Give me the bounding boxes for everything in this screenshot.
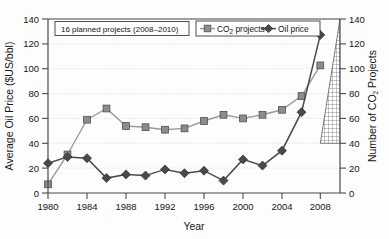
chart-legend[interactable]: CO2 projects Oil price (196, 21, 320, 36)
y-right-tick-label: 140 (349, 14, 365, 25)
chart-figure: 140 120 100 80 60 40 20 0 140 120 100 80… (0, 0, 389, 239)
chart-svg: 140 120 100 80 60 40 20 0 140 120 100 80… (0, 0, 389, 239)
y-left-tick-label: 60 (28, 113, 39, 124)
legend-square-marker-icon (204, 25, 211, 32)
y-left-tick-label: 140 (23, 14, 39, 25)
x-tick-label: 2000 (232, 201, 253, 212)
x-tick-label: 1996 (193, 201, 214, 212)
y-right-axis-title-post: Projects (366, 50, 378, 91)
y-right-tick-label: 60 (349, 113, 360, 124)
x-tick-label: 2008 (310, 201, 331, 212)
y-left-tick-label: 80 (28, 88, 39, 99)
y-left-tick-label: 40 (28, 138, 39, 149)
y-left-tick-label: 120 (23, 38, 39, 49)
y-right-tick-label: 20 (349, 163, 360, 174)
y-right-tick-label: 100 (349, 63, 365, 74)
y-right-tick-label: 80 (349, 88, 360, 99)
x-tick-label: 2004 (271, 201, 292, 212)
planned-projects-annotation: 16 planned projects (2008–2010) (55, 22, 189, 36)
y-right-axis-title-pre: Number of CO (366, 94, 378, 162)
y-right-tick-label: 0 (349, 188, 354, 199)
x-axis-title: Year (183, 220, 205, 232)
y-right-tick-label: 120 (349, 38, 365, 49)
y-left-tick-label: 20 (28, 163, 39, 174)
legend-item-oil-price[interactable]: Oil price (261, 24, 309, 34)
legend-label-oil-price: Oil price (278, 24, 309, 34)
legend-label-co2-projects: CO2 projects (217, 24, 265, 35)
planned-projects-annotation-label: 16 planned projects (2008–2010) (61, 25, 179, 34)
y-right-tick-label: 40 (349, 138, 360, 149)
y-left-axis-title: Average Oil Price ($US/bbl) (3, 42, 15, 171)
y-left-tick-label: 0 (34, 188, 39, 199)
x-tick-label: 1992 (154, 201, 175, 212)
x-tick-label: 1984 (76, 201, 97, 212)
y-right-axis-title: Number of CO2 Projects (366, 50, 379, 162)
svg-text:Number of CO2 Projects: Number of CO2 Projects (366, 50, 379, 162)
x-tick-label: 1980 (37, 201, 58, 212)
x-tick-label: 1988 (115, 201, 136, 212)
y-left-tick-label: 100 (23, 63, 39, 74)
